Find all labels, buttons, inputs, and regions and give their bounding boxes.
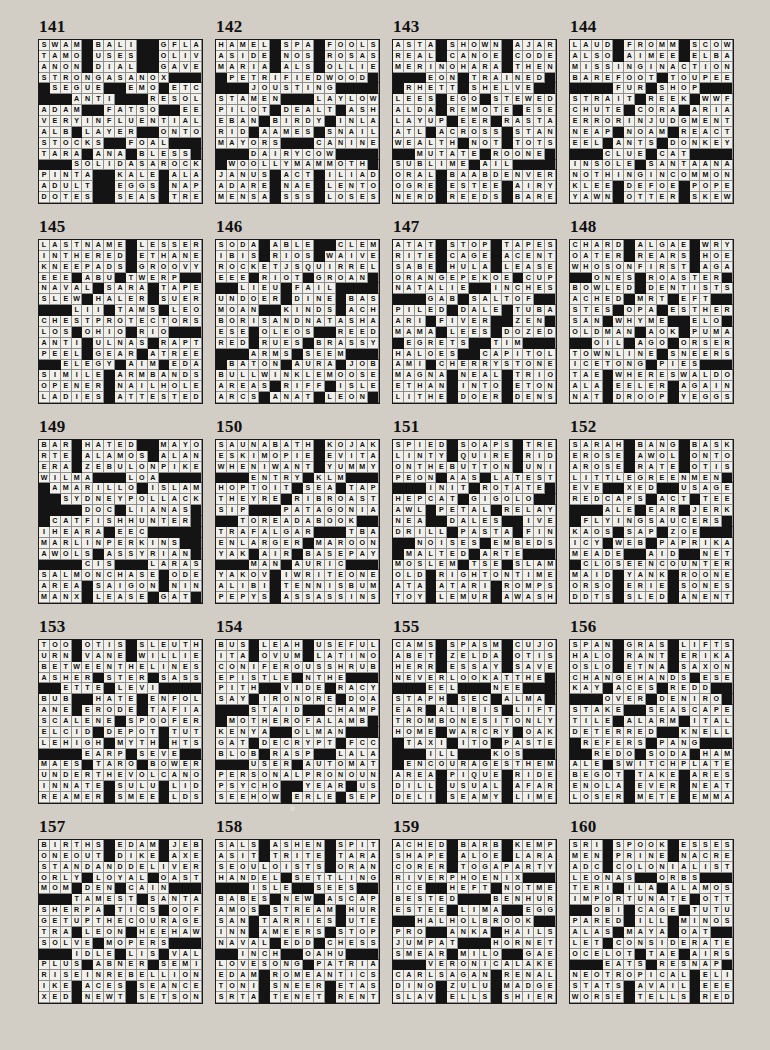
grid-letter: L [93, 949, 104, 960]
grid-block [668, 651, 679, 662]
grid-letter: B [61, 694, 72, 705]
grid-letter: A [415, 138, 426, 149]
grid-letter: N [570, 970, 581, 981]
grid-letter: E [534, 992, 545, 1003]
grid-block [668, 916, 679, 927]
grid-letter: O [159, 873, 170, 884]
grid-letter: E [581, 873, 592, 884]
grid-letter: I [711, 105, 722, 116]
grid-letter: A [635, 927, 646, 938]
grid-letter: O [624, 73, 635, 84]
grid-letter: A [336, 338, 347, 349]
grid-letter: S [148, 305, 159, 316]
grid-block [50, 494, 61, 505]
grid-letter: T [50, 862, 61, 873]
grid-letter: M [325, 370, 336, 381]
grid-letter: L [126, 62, 137, 73]
grid-letter: E [545, 662, 556, 673]
grid-letter: S [325, 916, 336, 927]
grid-letter: R [61, 538, 72, 549]
grid-letter: I [690, 916, 701, 927]
puzzle-150: 150SAUNABATHKOJAKESKIMOPIEEVITAWHENIWANT… [215, 418, 392, 618]
grid-letter: L [259, 862, 270, 873]
grid-letter: W [259, 370, 270, 381]
grid-letter: I [292, 73, 303, 84]
grid-letter: S [469, 83, 480, 94]
grid-letter: N [259, 473, 270, 484]
grid-block [249, 505, 260, 516]
grid-letter: R [469, 727, 480, 738]
grid-letter: E [722, 251, 733, 262]
grid-letter: E [646, 381, 657, 392]
grid-letter: A [480, 781, 491, 792]
grid-block [314, 440, 325, 451]
grid-letter: D [613, 749, 624, 760]
grid-letter: E [50, 116, 61, 127]
grid-letter: L [415, 505, 426, 516]
grid-block [679, 505, 690, 516]
grid-letter: O [592, 905, 603, 916]
grid-block [61, 505, 72, 516]
grid-letter: C [357, 738, 368, 749]
grid-letter: O [711, 40, 722, 51]
grid-letter: N [281, 181, 292, 192]
grid-block [603, 483, 614, 494]
grid-block [690, 894, 701, 905]
grid-letter: R [624, 651, 635, 662]
grid-letter: T [635, 770, 646, 781]
grid-letter: L [393, 392, 404, 403]
grid-letter: O [249, 138, 260, 149]
grid-letter: N [711, 116, 722, 127]
grid-letter: R [690, 651, 701, 662]
grid-letter: A [415, 51, 426, 62]
grid-letter: E [259, 51, 270, 62]
grid-letter: O [393, 170, 404, 181]
grid-block [281, 949, 292, 960]
grid-block [722, 473, 733, 484]
grid-letter: E [148, 570, 159, 581]
grid-letter: O [227, 662, 238, 673]
grid-letter: L [357, 381, 368, 392]
grid-letter: E [303, 981, 314, 992]
grid-letter: B [270, 116, 281, 127]
grid-block [646, 960, 657, 971]
grid-letter: T [469, 181, 480, 192]
grid-letter: E [137, 116, 148, 127]
grid-letter: C [137, 527, 148, 538]
grid-letter: R [635, 83, 646, 94]
grid-letter: S [690, 360, 701, 371]
grid-block [436, 327, 447, 338]
grid-letter: E [668, 949, 679, 960]
grid-letter: A [137, 883, 148, 894]
grid-letter: L [314, 94, 325, 105]
grid-letter: Y [679, 392, 690, 403]
grid-letter: A [50, 240, 61, 251]
grid-letter: A [534, 560, 545, 571]
grid-letter: I [72, 392, 83, 403]
grid-letter: G [82, 738, 93, 749]
grid-letter: M [393, 560, 404, 571]
grid-letter: O [292, 51, 303, 62]
grid-block [502, 949, 513, 960]
grid-block [72, 694, 83, 705]
grid-block [180, 883, 191, 894]
grid-letter: V [61, 283, 72, 294]
grid-block [613, 640, 624, 651]
grid-letter: E [534, 62, 545, 73]
grid-letter: H [624, 370, 635, 381]
grid-letter: B [93, 40, 104, 51]
grid-letter: T [570, 349, 581, 360]
grid-letter: N [357, 873, 368, 884]
grid-letter: H [668, 760, 679, 771]
grid-block [93, 673, 104, 684]
grid-letter: J [393, 938, 404, 949]
grid-letter: A [39, 181, 50, 192]
grid-letter: E [227, 770, 238, 781]
grid-letter: E [458, 651, 469, 662]
grid-letter: B [447, 294, 458, 305]
grid-letter: P [679, 760, 690, 771]
grid-letter: A [469, 760, 480, 771]
grid-block [624, 440, 635, 451]
grid-letter: L [502, 262, 513, 273]
grid-letter: I [93, 560, 104, 571]
